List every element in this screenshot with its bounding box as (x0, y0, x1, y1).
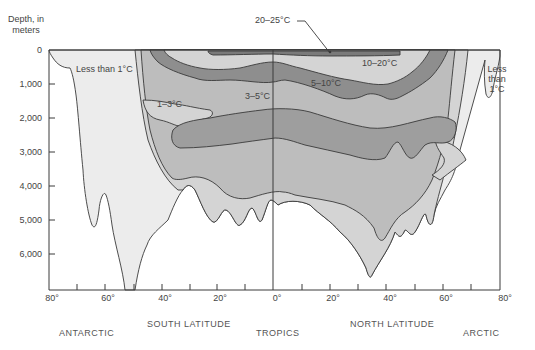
label-less-than-1-north: Less than 1°C (486, 64, 508, 94)
label-1-3: 1–3°C (157, 99, 182, 109)
region-south-latitude: SOUTH LATITUDE (147, 319, 231, 329)
label-10-20: 10–20°C (362, 58, 397, 68)
x-tick-0: 0° (262, 293, 292, 303)
region-arctic: ARCTIC (463, 328, 500, 338)
pointer-arrow-head (329, 51, 332, 54)
label-less-than-1-north-line2: than (486, 74, 508, 84)
label-20-25: 20–25°C (255, 15, 290, 25)
pointer-arrow-20-25 (297, 21, 330, 53)
x-tick-20s: 20° (205, 293, 235, 303)
label-3-5: 3–5°C (245, 91, 270, 101)
region-tropics: TROPICS (256, 328, 300, 338)
x-tick-20n: 20° (318, 293, 348, 303)
x-tick-40n: 40° (375, 293, 405, 303)
x-tick-80s: 80° (37, 293, 67, 303)
label-less-than-1-north-line3: 1°C (486, 84, 508, 94)
label-less-than-1-north-line1: Less (486, 64, 508, 74)
region-antarctic: ANTARCTIC (59, 328, 114, 338)
x-tick-80n: 80° (490, 293, 520, 303)
label-5-10: 5–10°C (311, 78, 341, 88)
x-tick-60n: 60° (431, 293, 461, 303)
label-less-than-1-south: Less than 1°C (76, 64, 133, 74)
x-tick-60s: 60° (93, 293, 123, 303)
y-tick-marks (49, 84, 55, 254)
region-north-latitude: NORTH LATITUDE (350, 319, 434, 329)
x-tick-40s: 40° (150, 293, 180, 303)
